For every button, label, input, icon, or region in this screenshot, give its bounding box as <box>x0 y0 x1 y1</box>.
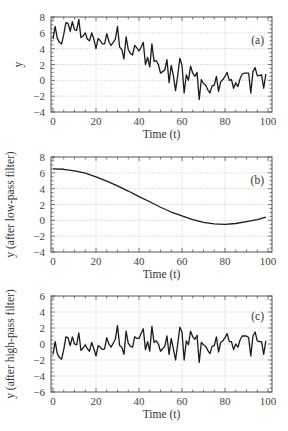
x-tick-label: 60 <box>177 395 189 407</box>
x-tick-label: 80 <box>220 255 232 267</box>
chart-b: 020406080100−4−202468Time (t)y (after lo… <box>0 140 288 283</box>
y-tick-label: 6 <box>40 27 46 39</box>
x-tick-label: 40 <box>134 395 146 407</box>
y-tick-label: −6 <box>33 386 45 398</box>
chart-a: 020406080100−4−202468Time (t)y(a) <box>0 0 288 143</box>
x-tick-label: 80 <box>220 395 232 407</box>
x-axis-title: Time (t) <box>143 408 181 421</box>
y-tick-label: −4 <box>33 106 45 118</box>
y-tick-label: 2 <box>40 199 46 211</box>
y-tick-label: 6 <box>40 167 46 179</box>
y-tick-label: 8 <box>40 151 46 163</box>
y-tick-label: 0 <box>40 338 46 350</box>
y-tick-label: −4 <box>33 246 45 258</box>
data-line <box>53 169 266 224</box>
y-axis-title: y <box>12 61 25 67</box>
y-tick-label: 2 <box>40 59 46 71</box>
panel-label: (a) <box>251 34 264 47</box>
y-axis-title: y (after low-pass filter) <box>4 151 17 258</box>
x-tick-label: 0 <box>50 255 56 267</box>
grid-lines <box>51 17 272 112</box>
panel-label: (b) <box>251 174 265 187</box>
x-tick-label: 20 <box>91 115 103 127</box>
y-tick-label: 6 <box>40 290 46 302</box>
y-tick-label: −2 <box>33 90 45 102</box>
grid-lines <box>51 157 272 252</box>
y-tick-label: −2 <box>33 354 45 366</box>
panel-label: (c) <box>251 310 264 323</box>
x-tick-label: 20 <box>91 395 103 407</box>
x-tick-label: 0 <box>50 395 56 407</box>
x-tick-label: 80 <box>220 115 232 127</box>
panel-a-raw-signal: 020406080100−4−202468Time (t)y(a) <box>0 0 288 143</box>
x-tick-label: 100 <box>260 115 277 127</box>
y-tick-label: −4 <box>33 370 45 382</box>
y-tick-label: 0 <box>40 74 46 86</box>
y-tick-label: 2 <box>40 322 46 334</box>
y-tick-label: 4 <box>40 306 46 318</box>
x-tick-label: 100 <box>260 395 277 407</box>
x-tick-label: 60 <box>177 255 189 267</box>
y-tick-label: 4 <box>40 43 46 55</box>
x-tick-label: 100 <box>260 255 277 267</box>
data-line <box>53 19 266 99</box>
x-tick-label: 20 <box>91 255 103 267</box>
panel-b-low-pass: 020406080100−4−202468Time (t)y (after lo… <box>0 140 288 283</box>
x-tick-label: 60 <box>177 115 189 127</box>
y-tick-label: −2 <box>33 230 45 242</box>
chart-c: 020406080100−6−4−20246Time (t)y (after h… <box>0 280 288 431</box>
y-axis-title: y (after high-pass filter) <box>4 289 17 399</box>
panel-c-high-pass: 020406080100−6−4−20246Time (t)y (after h… <box>0 280 288 423</box>
y-tick-label: 8 <box>40 11 46 23</box>
x-tick-label: 40 <box>134 255 146 267</box>
y-tick-label: 0 <box>40 214 46 226</box>
x-tick-label: 0 <box>50 115 56 127</box>
x-tick-label: 40 <box>134 115 146 127</box>
y-tick-label: 4 <box>40 183 46 195</box>
